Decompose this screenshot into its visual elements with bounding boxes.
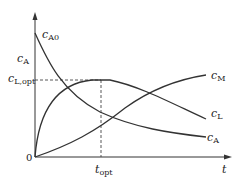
label-x-axis-t: t bbox=[222, 163, 227, 176]
label-cL-opt: cL,opt bbox=[8, 72, 36, 86]
curve-cM bbox=[35, 75, 206, 157]
label-cA: cA bbox=[207, 131, 219, 145]
label-cL: cL bbox=[211, 107, 223, 121]
label-cA0: cA0 bbox=[42, 28, 59, 42]
label-cM: cM bbox=[211, 69, 225, 83]
curve-cA bbox=[35, 33, 206, 137]
label-t-opt: topt bbox=[95, 163, 113, 177]
y-axis-arrow-icon bbox=[33, 12, 38, 20]
label-origin: 0 bbox=[26, 152, 32, 163]
x-axis-arrow-icon bbox=[224, 155, 232, 160]
label-y-axis-cA: cA bbox=[17, 52, 29, 66]
curve-cL bbox=[35, 80, 206, 157]
concentration-time-diagram: cA0 cA cL,opt 0 topt t cM cL cA bbox=[0, 0, 241, 182]
